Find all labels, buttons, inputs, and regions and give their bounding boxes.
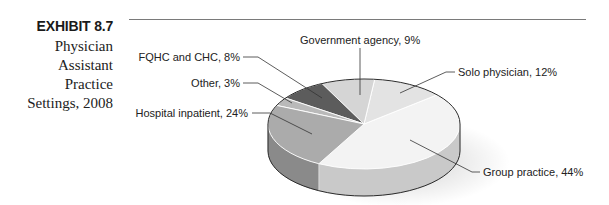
label-group: Group practice, 44%: [483, 166, 583, 178]
label-fqhc: FQHC and CHC, 8%: [139, 51, 241, 63]
label-government: Government agency, 9%: [300, 34, 420, 46]
label-hospital: Hospital inpatient, 24%: [135, 107, 248, 119]
pie-chart: Government agency, 9% Solo physician, 12…: [0, 0, 609, 205]
label-other: Other, 3%: [191, 77, 240, 89]
label-solo: Solo physician, 12%: [458, 66, 557, 78]
pie-slices: [268, 79, 460, 169]
